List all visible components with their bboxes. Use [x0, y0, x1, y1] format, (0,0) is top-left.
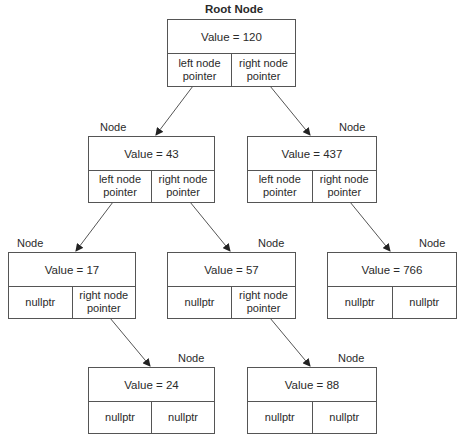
- pointer-text: nullptr: [265, 411, 295, 424]
- edge-120-right-to-437: [270, 86, 310, 135]
- left-pointer-cell: left node pointer: [248, 170, 312, 202]
- node-label: Node: [178, 352, 204, 364]
- node-value: Value = 24: [89, 368, 214, 402]
- pointer-text: right node pointer: [239, 57, 288, 83]
- node-label: Node: [338, 352, 364, 364]
- edge-43-left-to-17: [76, 202, 113, 251]
- left-pointer-cell: left node pointer: [89, 170, 151, 202]
- node-value: Value = 766: [328, 253, 456, 287]
- pointer-text: right node pointer: [320, 173, 369, 199]
- left-pointer-cell: left node pointer: [168, 53, 231, 86]
- tree-node-43: Value = 43 left node pointer right node …: [88, 136, 215, 203]
- bst-diagram: Root Node Value = 120 left node pointer …: [0, 0, 462, 447]
- right-pointer-cell: right node pointer: [231, 286, 295, 318]
- pointer-text: nullptr: [329, 411, 359, 424]
- node-value: Value = 120: [168, 20, 295, 54]
- node-value: Value = 43: [89, 137, 214, 171]
- node-value: Value = 437: [248, 137, 376, 171]
- node-value: Value = 17: [9, 253, 135, 287]
- node-label: Node: [339, 121, 365, 133]
- tree-node-57: Value = 57 nullptr right node pointer: [167, 252, 296, 319]
- edge-43-right-to-57: [190, 202, 230, 251]
- tree-node-24: Value = 24 nullptr nullptr: [88, 367, 215, 434]
- right-pointer-cell: right node pointer: [312, 170, 377, 202]
- pointer-text: right node pointer: [79, 289, 128, 315]
- pointer-text: nullptr: [105, 411, 135, 424]
- right-pointer-cell: nullptr: [312, 401, 377, 433]
- pointer-text: left node pointer: [178, 57, 220, 83]
- node-label: Node: [100, 121, 126, 133]
- pointer-text: left node pointer: [259, 173, 301, 199]
- pointer-text: left node pointer: [99, 173, 141, 199]
- right-pointer-cell: nullptr: [392, 286, 457, 318]
- node-label: Node: [419, 237, 445, 249]
- left-pointer-cell: nullptr: [168, 286, 231, 318]
- pointer-text: nullptr: [409, 296, 439, 309]
- edge-120-left-to-43: [156, 86, 193, 135]
- edge-437-right-to-766: [350, 202, 390, 251]
- left-pointer-cell: nullptr: [328, 286, 392, 318]
- node-value: Value = 57: [168, 253, 295, 287]
- pointer-text: nullptr: [185, 296, 215, 309]
- edge-57-right-to-88: [270, 318, 310, 366]
- pointer-text: right node pointer: [239, 289, 288, 315]
- right-pointer-cell: right node pointer: [72, 286, 136, 318]
- node-label: Node: [17, 237, 43, 249]
- node-label: Node: [258, 237, 284, 249]
- pointer-text: nullptr: [168, 411, 198, 424]
- right-pointer-cell: right node pointer: [151, 170, 214, 202]
- node-value: Value = 88: [248, 368, 376, 402]
- tree-node-766: Value = 766 nullptr nullptr: [327, 252, 457, 319]
- left-pointer-cell: nullptr: [89, 401, 151, 433]
- right-pointer-cell: nullptr: [151, 401, 214, 433]
- left-pointer-cell: nullptr: [248, 401, 312, 433]
- pointer-text: right node pointer: [159, 173, 208, 199]
- tree-node-88: Value = 88 nullptr nullptr: [247, 367, 377, 434]
- right-pointer-cell: right node pointer: [231, 53, 295, 86]
- edge-17-right-to-24: [110, 318, 150, 366]
- left-pointer-cell: nullptr: [9, 286, 72, 318]
- tree-node-437: Value = 437 left node pointer right node…: [247, 136, 377, 203]
- tree-node-17: Value = 17 nullptr right node pointer: [8, 252, 136, 319]
- pointer-text: nullptr: [345, 296, 375, 309]
- tree-node-120: Value = 120 left node pointer right node…: [167, 19, 296, 87]
- root-node-label: Root Node: [205, 3, 263, 15]
- pointer-text: nullptr: [25, 296, 55, 309]
